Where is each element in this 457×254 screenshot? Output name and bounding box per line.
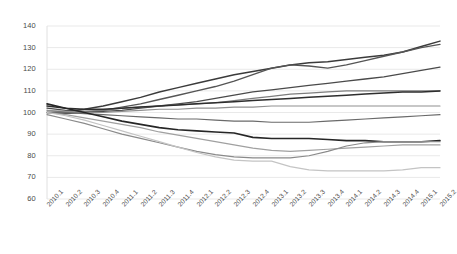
y-tick-label: 130 [6,43,36,52]
y-tick-label: 80 [6,151,36,160]
y-tick-label: 100 [6,108,36,117]
y-tick-label: 120 [6,64,36,73]
y-tick-label: 70 [6,172,36,181]
y-tick-label: 60 [6,194,36,203]
y-tick-label: 90 [6,129,36,138]
y-tick-label: 140 [6,21,36,30]
data-line-series-2 [47,44,440,113]
y-tick-label: 110 [6,86,36,95]
